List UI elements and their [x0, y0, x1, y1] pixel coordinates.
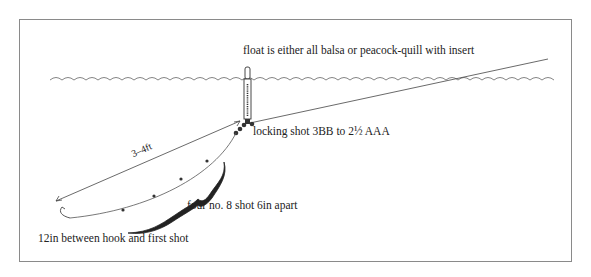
float-icon: [244, 67, 251, 124]
locking-shot-icon: [234, 122, 255, 136]
hook-gap-label: 12in between hook and first shot: [38, 233, 188, 245]
depth-arrow: [56, 121, 240, 201]
brace-icon: [128, 162, 225, 233]
dropper-shot-label: four no. 8 shot 6in apart: [187, 200, 298, 212]
locking-shot-label: locking shot 3BB to 2½ AAA: [253, 126, 390, 138]
float-note-label: float is either all balsa or peacock-qui…: [243, 45, 474, 57]
hook-icon: [60, 207, 70, 218]
main-line: [250, 59, 548, 123]
water-surface: [50, 78, 554, 81]
